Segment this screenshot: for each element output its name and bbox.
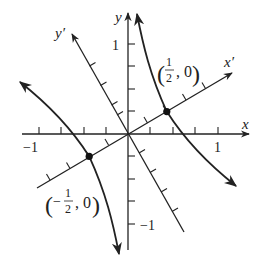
y-tick-label-pos: 1 (112, 38, 119, 53)
svg-text:): ) (192, 61, 200, 87)
vertex-right-label: ( 1 2 , 0 ) (157, 55, 200, 87)
y-prime-axis-label: y′ (53, 25, 66, 41)
x-tick-label-pos: 1 (214, 140, 221, 155)
svg-text:2: 2 (166, 71, 172, 85)
svg-text:−: − (53, 194, 61, 209)
svg-text:1: 1 (166, 55, 172, 69)
x-tick-label-neg: −1 (23, 140, 38, 155)
vertex-left-label: ( − 1 2 , 0 ) (45, 186, 100, 218)
vertex-left-point (86, 153, 93, 160)
svg-text:1: 1 (65, 186, 71, 200)
vertex-right-point (163, 108, 170, 115)
svg-text:): ) (92, 192, 100, 218)
rotated-hyperbola-diagram: x y x′ y′ −1 1 1 −1 ( 1 2 , 0 ) ( − 1 2 … (0, 0, 263, 259)
x-prime-axis-label: x′ (223, 54, 235, 70)
y-axis-label: y (113, 9, 122, 25)
svg-text:, 0: , 0 (75, 194, 91, 211)
svg-text:(: ( (45, 192, 53, 218)
svg-text:, 0: , 0 (176, 63, 192, 80)
svg-text:2: 2 (65, 202, 71, 216)
x-axis-label: x (241, 116, 249, 132)
svg-text:(: ( (157, 61, 165, 87)
x-prime-axis (37, 73, 232, 188)
y-tick-label-neg: −1 (140, 218, 155, 233)
